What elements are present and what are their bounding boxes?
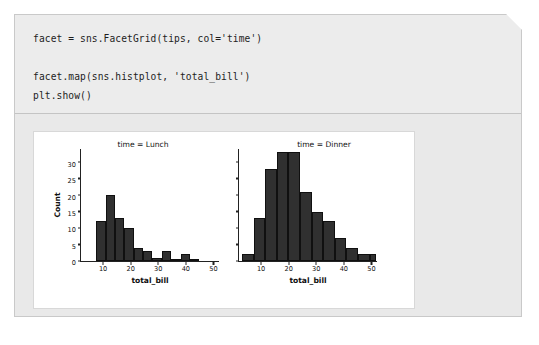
- x-tick-label: 50: [367, 266, 375, 273]
- y-tick-label: 15: [68, 211, 81, 218]
- histogram-bar: [106, 195, 115, 261]
- y-tick-label: 30: [68, 162, 81, 169]
- x-tick-label: 20: [126, 266, 134, 273]
- histogram-bar: [254, 218, 266, 261]
- histogram-bar: [300, 192, 312, 261]
- x-tick-mark: [261, 261, 262, 265]
- histogram-bar: [335, 238, 347, 261]
- y-tick-label: 10: [68, 228, 81, 235]
- histogram-bar: [124, 228, 133, 261]
- x-tick-mark: [158, 261, 159, 265]
- x-tick-label: 10: [99, 266, 107, 273]
- histogram-bar: [312, 212, 324, 261]
- code-input-region[interactable]: facet = sns.FacetGrid(tips, col='time') …: [15, 15, 521, 113]
- histogram-bar: [288, 152, 300, 261]
- x-tick-label: 30: [154, 266, 162, 273]
- facet-title-dinner: time = Dinner: [230, 140, 416, 149]
- x-tick-label: 30: [312, 266, 320, 273]
- y-tick-label: 5: [72, 244, 81, 251]
- y-tick-label: 0: [72, 261, 81, 268]
- x-tick-label: 40: [340, 266, 348, 273]
- x-tick-mark: [103, 261, 104, 265]
- x-tick-label: 40: [182, 266, 190, 273]
- histogram-bar: [265, 169, 277, 261]
- y-tick-mark: [236, 162, 240, 163]
- x-axis-label-dinner: total_bill: [239, 276, 377, 285]
- x-tick-mark: [371, 261, 372, 265]
- histogram-bar: [143, 251, 152, 261]
- histogram-bar: [370, 254, 376, 261]
- y-tick-mark: [236, 227, 240, 228]
- x-tick-mark: [316, 261, 317, 265]
- histogram-bar: [346, 248, 358, 261]
- x-tick-label: 50: [209, 266, 217, 273]
- axes-lunch: Count total_bill 1020304050051015202530: [80, 149, 219, 262]
- y-tick-label: 20: [68, 195, 81, 202]
- facet-panel-lunch: time = Lunch Count total_bill 1020304050…: [34, 132, 230, 308]
- notebook-cell-card: facet = sns.FacetGrid(tips, col='time') …: [14, 14, 522, 317]
- x-tick-label: 20: [284, 266, 292, 273]
- x-axis-label-lunch: total_bill: [81, 276, 219, 285]
- histogram-bar: [181, 254, 190, 261]
- facet-panel-dinner: time = Dinner total_bill 1020304050: [230, 132, 416, 308]
- matplotlib-figure: time = Lunch Count total_bill 1020304050…: [33, 131, 415, 309]
- y-axis-label-lunch: Count: [53, 192, 62, 217]
- histogram-bar: [190, 259, 199, 261]
- histogram-bar: [171, 259, 180, 261]
- bars-dinner: [239, 149, 377, 261]
- histogram-bar: [242, 254, 254, 261]
- histogram-bar: [115, 218, 124, 261]
- histogram-bar: [134, 248, 143, 261]
- histogram-bar: [162, 251, 171, 261]
- bars-lunch: [81, 149, 219, 261]
- y-tick-mark: [236, 194, 240, 195]
- x-tick-mark: [213, 261, 214, 265]
- code-source-text[interactable]: facet = sns.FacetGrid(tips, col='time') …: [33, 29, 262, 105]
- x-tick-mark: [343, 261, 344, 265]
- histogram-bar: [358, 254, 370, 261]
- x-tick-mark: [130, 261, 131, 265]
- axes-dinner: total_bill 1020304050: [238, 149, 377, 262]
- histogram-bar: [323, 221, 335, 261]
- y-tick-mark: [236, 178, 240, 179]
- y-tick-mark: [236, 260, 240, 261]
- code-output-region: time = Lunch Count total_bill 1020304050…: [15, 114, 521, 316]
- histogram-bar: [96, 221, 105, 261]
- x-tick-mark: [288, 261, 289, 265]
- x-tick-mark: [185, 261, 186, 265]
- facet-title-lunch: time = Lunch: [34, 140, 230, 149]
- y-tick-label: 25: [68, 178, 81, 185]
- histogram-bar: [277, 152, 289, 261]
- y-tick-mark: [236, 244, 240, 245]
- y-tick-mark: [236, 211, 240, 212]
- x-tick-label: 10: [257, 266, 265, 273]
